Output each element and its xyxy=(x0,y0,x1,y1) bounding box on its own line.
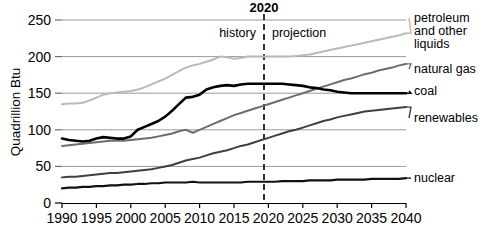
energy-consumption-line-chart: 050100150200250 199019952000200520102015… xyxy=(0,0,486,247)
y-tick-label-100: 100 xyxy=(28,122,52,138)
divider-year-label: 2020 xyxy=(250,0,279,15)
series-label-natural-gas: natural gas xyxy=(414,62,476,76)
y-axis-title: Quadrillion Btu xyxy=(8,68,23,157)
y-tick-label-0: 0 xyxy=(43,195,51,211)
x-tick-label-2015: 2015 xyxy=(218,210,249,226)
y-tick-label-250: 250 xyxy=(28,12,52,28)
y-tick-label-150: 150 xyxy=(28,85,52,101)
series-label-petroleum-line1: petroleum xyxy=(414,11,470,25)
y-tick-label-200: 200 xyxy=(28,49,52,65)
series-label-coal: coal xyxy=(414,84,437,98)
projection-label: projection xyxy=(272,26,326,40)
x-tick-label-2010: 2010 xyxy=(184,210,215,226)
x-tick-label-2035: 2035 xyxy=(356,210,387,226)
x-tick-label-2040: 2040 xyxy=(390,210,421,226)
history-label: history xyxy=(219,26,257,40)
series-label-petroleum-line3: liquids xyxy=(414,37,449,51)
series-label-nuclear: nuclear xyxy=(414,171,455,185)
series-label-renewables: renewables xyxy=(414,111,478,125)
x-tick-label-2025: 2025 xyxy=(287,210,318,226)
x-tick-label-2030: 2030 xyxy=(322,210,353,226)
x-tick-label-2020: 2020 xyxy=(253,210,284,226)
x-tick-label-1995: 1995 xyxy=(81,210,112,226)
chart-container: 050100150200250 199019952000200520102015… xyxy=(0,0,486,247)
x-tick-label-2000: 2000 xyxy=(115,210,146,226)
series-label-petroleum-line2: and other xyxy=(414,24,467,38)
x-tick-label-1990: 1990 xyxy=(46,210,77,226)
x-tick-label-2005: 2005 xyxy=(150,210,181,226)
x-tick-labels-group: 1990199520002005201020152020202520302035… xyxy=(46,210,421,226)
y-tick-label-50: 50 xyxy=(35,158,51,174)
